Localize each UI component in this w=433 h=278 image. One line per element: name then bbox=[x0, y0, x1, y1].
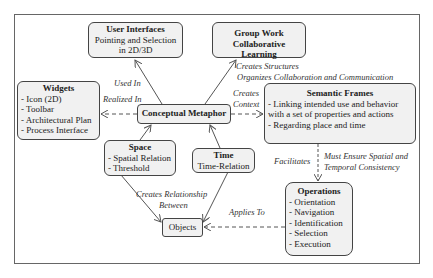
edge-label-creates: Creates bbox=[233, 88, 259, 98]
node-space: Space - Spatial Relation - Threshold bbox=[104, 140, 176, 176]
node-title: Semantic Frames bbox=[268, 88, 412, 99]
list-item: with a set of properties and actions bbox=[268, 109, 412, 120]
node-time: Time Time-Relation bbox=[192, 148, 255, 173]
node-line: Time-Relation bbox=[196, 161, 251, 172]
edge-label-realized-in: Realized In bbox=[103, 94, 141, 104]
edge-label-creates-relationship: Creates Relationship bbox=[136, 189, 207, 199]
node-title: Space bbox=[108, 142, 172, 153]
list-item: - Icon (2D) bbox=[21, 94, 96, 105]
node-title: Objects bbox=[166, 222, 199, 233]
operations-list: - Orientation - Navigation - Identificat… bbox=[289, 197, 349, 250]
list-item: - Toolbar bbox=[21, 104, 96, 115]
list-item: - Regarding place and time bbox=[268, 120, 412, 131]
list-item: - Linking intended use and behavior bbox=[268, 99, 412, 110]
semantic-frames-list: - Linking intended use and behavior with… bbox=[268, 99, 412, 131]
list-item: - Execution bbox=[289, 239, 349, 250]
space-list: - Spatial Relation - Threshold bbox=[108, 153, 172, 174]
list-item: - Identification bbox=[289, 218, 349, 229]
node-title: Time bbox=[196, 150, 251, 161]
node-conceptual-metaphor: Conceptual Metaphor bbox=[137, 104, 231, 124]
list-item: - Architectural Plan bbox=[21, 115, 96, 126]
node-objects: Objects bbox=[162, 218, 203, 237]
edge-label-must-ensure-1: Must Ensure Spatial and bbox=[324, 151, 408, 161]
node-title: Widgets bbox=[21, 83, 96, 94]
node-operations: Operations - Orientation - Navigation - … bbox=[285, 182, 353, 256]
edge-label-used-in: Used In bbox=[114, 78, 141, 88]
edge-label-must-ensure-2: Temporal Consistency bbox=[324, 162, 399, 172]
edge-label-between: Between bbox=[159, 200, 188, 210]
node-line: in 2D/3D bbox=[92, 45, 179, 56]
node-title: Group Work bbox=[216, 28, 302, 39]
list-item: - Navigation bbox=[289, 207, 349, 218]
node-line: Collaborative Learning bbox=[216, 39, 302, 60]
list-item: - Spatial Relation bbox=[108, 153, 172, 164]
edge-label-facilitates: Facilitates bbox=[274, 156, 310, 166]
node-group-work: Group Work Collaborative Learning bbox=[212, 22, 306, 58]
list-item: - Orientation bbox=[289, 197, 349, 208]
node-widgets: Widgets - Icon (2D) - Toolbar - Architec… bbox=[17, 81, 100, 140]
edge-label-organizes: Organizes Collaboration and Communicatio… bbox=[237, 72, 393, 82]
edge-label-applies-to: Applies To bbox=[229, 207, 265, 217]
list-item: - Selection bbox=[289, 228, 349, 239]
node-semantic-frames: Semantic Frames - Linking intended use a… bbox=[264, 83, 416, 144]
edge-label-creates-structures: Creates Structures bbox=[236, 61, 299, 71]
edge-label-context: Context bbox=[233, 99, 259, 109]
node-title: Operations bbox=[289, 186, 349, 197]
widgets-list: - Icon (2D) - Toolbar - Architectural Pl… bbox=[21, 94, 96, 136]
node-line: Pointing and Selection bbox=[92, 35, 179, 46]
node-title: User Interfaces bbox=[92, 24, 179, 35]
node-user-interfaces: User Interfaces Pointing and Selection i… bbox=[88, 22, 183, 58]
list-item: - Process Interface bbox=[21, 125, 96, 136]
list-item: - Threshold bbox=[108, 163, 172, 174]
node-title: Conceptual Metaphor bbox=[141, 108, 227, 119]
